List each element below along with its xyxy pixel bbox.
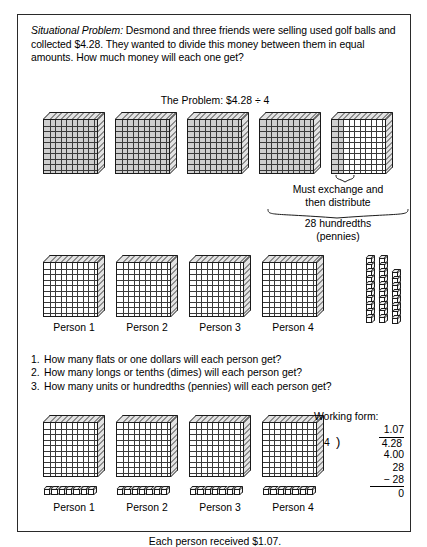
flat-top-face: [116, 415, 178, 422]
base-ten-flat: [115, 112, 177, 174]
cube-front-face: [197, 489, 203, 495]
cube-front-face: [161, 489, 167, 495]
cube-front-face: [300, 489, 306, 495]
flat-side-face: [317, 255, 324, 317]
base-ten-flat: [187, 112, 249, 174]
hundredths-annotation: 28 hundredths (pennies): [264, 217, 412, 243]
flat-top-face: [262, 255, 324, 262]
cube-side-face: [94, 486, 97, 495]
exchange-brace-small: [335, 175, 355, 183]
cube-side-face: [398, 315, 401, 324]
conclusion-text: Each person received $1.07.: [18, 536, 412, 547]
cube-front-face: [379, 317, 385, 323]
dividend: 4.28: [379, 437, 404, 450]
flat-top-face: [189, 415, 251, 422]
flat-front-face: [43, 119, 98, 174]
cube-side-face: [372, 314, 375, 323]
flat-top-face: [43, 415, 105, 422]
flat-front-face: [43, 422, 98, 477]
base-ten-flat: [189, 415, 251, 477]
cube-front-face: [81, 489, 87, 495]
question-item: 3.How many units or hundredths (pennies)…: [31, 380, 351, 393]
base-ten-flat: [262, 255, 324, 317]
cube-front-face: [285, 489, 291, 495]
flat-side-face: [242, 112, 249, 174]
flat-side-face: [98, 112, 105, 174]
flat-front-face: [331, 119, 386, 174]
cube-front-face: [190, 489, 196, 495]
cube-front-face: [59, 489, 65, 495]
flat-side-face: [171, 255, 178, 317]
base-ten-flat: [189, 255, 251, 317]
cube-front-face: [44, 489, 50, 495]
cube-front-face: [154, 489, 160, 495]
working-form: Working form: 1.07 4 ) 4.28 4.00 28 − 28…: [314, 411, 410, 501]
exchange-line-2: then distribute: [264, 196, 412, 209]
question-text: How many units or hundredths (pennies) w…: [44, 381, 332, 392]
person-label: Person 1: [39, 502, 109, 513]
question-number: 3.: [31, 380, 40, 393]
question-text: How many longs or tenths (dimes) will ea…: [44, 367, 302, 378]
cube-front-face: [51, 489, 57, 495]
cube-front-face: [88, 489, 94, 495]
cube-front-face: [392, 318, 398, 324]
cube-front-face: [227, 489, 233, 495]
base-ten-flat: [259, 112, 321, 174]
flat-side-face: [98, 415, 105, 477]
cube-front-face: [263, 489, 269, 495]
base-ten-flat: [43, 415, 105, 477]
division-step-3: − 28: [314, 474, 410, 486]
unit-cube: [379, 314, 388, 323]
unit-cube: [161, 486, 170, 495]
cube-front-face: [292, 489, 298, 495]
exchange-line-1: Must exchange and: [264, 183, 412, 196]
quotient: 1.07: [314, 424, 410, 436]
question-item: 2.How many longs or tenths (dimes) will …: [31, 366, 351, 379]
flat-front-face: [115, 119, 170, 174]
flat-top-face: [189, 255, 251, 262]
person-label: Person 3: [185, 502, 255, 513]
flat-top-face: [259, 112, 321, 119]
flat-side-face: [244, 415, 251, 477]
cube-front-face: [366, 317, 372, 323]
question-number: 2.: [31, 366, 40, 379]
question-text: How many flats or one dollars will each …: [44, 354, 281, 365]
cube-front-face: [124, 489, 130, 495]
flat-side-face: [314, 112, 321, 174]
base-ten-flat: [116, 255, 178, 317]
flat-top-face: [43, 112, 105, 119]
division-remainder: 0: [314, 488, 410, 500]
unit-cube: [366, 314, 375, 323]
flat-front-face: [43, 262, 98, 317]
flat-front-face: [262, 262, 317, 317]
flat-front-face: [187, 119, 242, 174]
cube-front-face: [270, 489, 276, 495]
division-rule: [370, 486, 404, 487]
base-ten-flat: [43, 112, 105, 174]
flat-side-face: [171, 415, 178, 477]
flat-side-face: [170, 112, 177, 174]
person-label: Person 1: [39, 322, 109, 333]
worksheet-page: Situational Problem: Desmond and three f…: [17, 14, 411, 532]
flat-side-face: [98, 255, 105, 317]
flat-top-face: [43, 255, 105, 262]
divisor: 4: [324, 437, 330, 449]
cube-front-face: [66, 489, 72, 495]
problem-expression: The Problem: $4.28 ÷ 4: [18, 95, 412, 106]
base-ten-flat: [43, 255, 105, 317]
cube-side-face: [240, 486, 243, 495]
cube-front-face: [307, 489, 313, 495]
question-list: 1.How many flats or one dollars will eac…: [31, 353, 351, 393]
working-form-title: Working form:: [314, 411, 410, 423]
person-label: Person 2: [112, 502, 182, 513]
cube-front-face: [219, 489, 225, 495]
flat-front-face: [189, 262, 244, 317]
question-number: 1.: [31, 353, 40, 366]
flat-front-face: [116, 262, 171, 317]
problem-statement: Situational Problem: Desmond and three f…: [31, 24, 399, 65]
cube-front-face: [205, 489, 211, 495]
division-bracket-row: 4 ) 4.28: [314, 437, 410, 449]
cube-front-face: [212, 489, 218, 495]
person-label: Person 4: [258, 322, 328, 333]
hundredths-line-2: (pennies): [264, 230, 412, 243]
